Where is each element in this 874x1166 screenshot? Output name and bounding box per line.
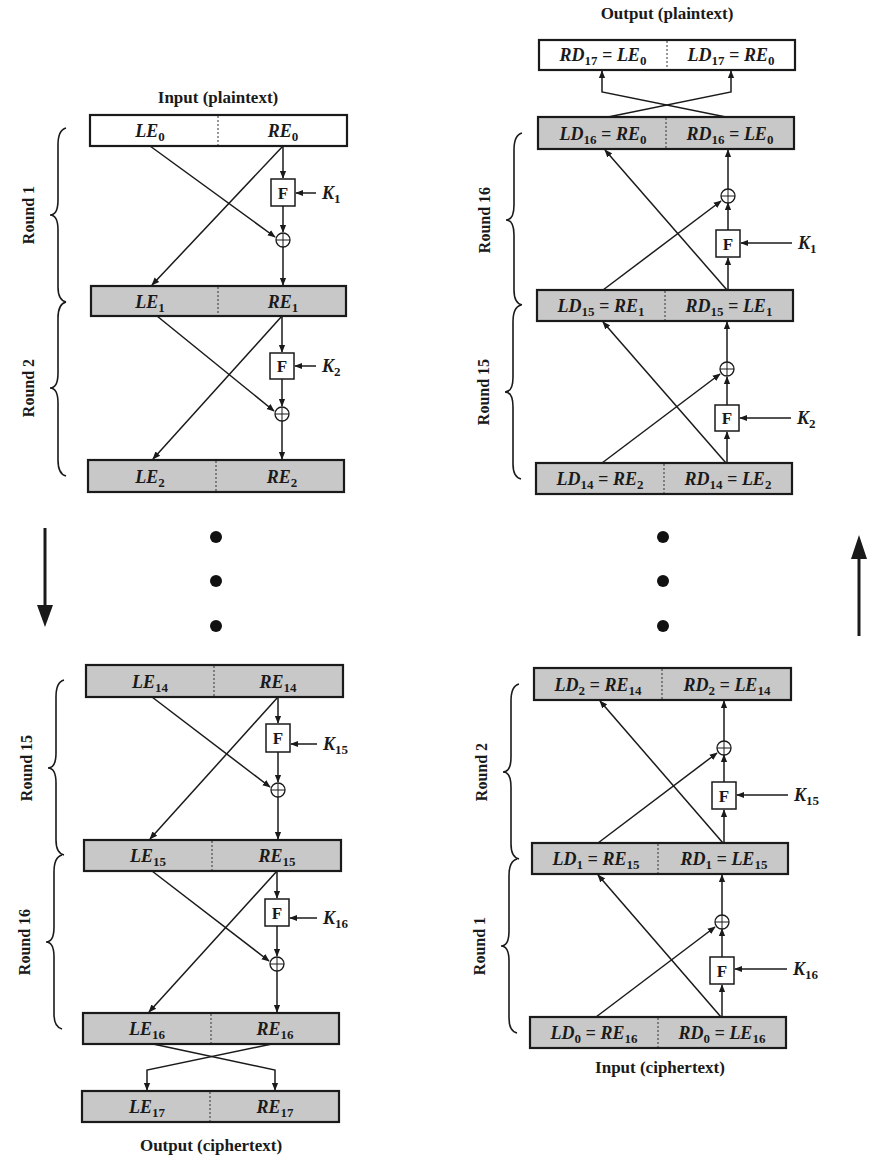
enc-round-braces: Round 1 Round 2 Round 15 Round 16 [16,128,66,1029]
dec-round-braces: Round 16 Round 15 Round 2 Round 1 [471,133,522,1033]
svg-text:Round 1: Round 1 [20,186,37,244]
svg-text:F: F [277,357,287,376]
enc-round-16-wiring: F K16 [149,871,349,1012]
svg-text:F: F [722,409,732,428]
enc-block-16: LE16 RE16 [83,1013,339,1044]
dec-round-2-wiring: F K15 [598,701,820,843]
dec-block-14: LD14 = RE2 RD14 = LE2 [536,463,792,494]
dec-block-15: LD15 = RE1 RD15 = LE1 [537,290,793,321]
feistel-diagram: Input (plaintext) LE0 RE0 F K1 [0,0,874,1166]
ellipsis-dots [657,531,669,632]
enc-round-1-wiring: F K1 [150,146,341,285]
decryption-input-label: Input (ciphertext) [595,1058,725,1077]
xor-icon [271,783,285,797]
xor-icon [720,362,734,376]
svg-text:F: F [278,184,288,203]
svg-text:RD17 = LE0: RD17 = LE0 [559,45,647,68]
direction-up-arrow-icon [851,535,867,636]
xor-icon [715,915,729,929]
encryption-column: Input (plaintext) LE0 RE0 F K1 [16,88,349,1155]
svg-text:LD14 = RE2: LD14 = RE2 [556,469,644,492]
dec-block-16: LD16 = RE0 RD16 = LE0 [538,117,794,149]
decryption-output-label: Output (plaintext) [601,4,734,23]
svg-text:F: F [719,787,729,806]
svg-text:Round 16: Round 16 [16,909,33,975]
enc-block-14: LE14 RE14 [86,665,343,697]
enc-key-2: K2 [321,356,341,379]
svg-text:RD16 = LE0: RD16 = LE0 [686,124,774,147]
enc-key-1: K1 [321,183,341,206]
svg-text:Round 2: Round 2 [20,359,37,417]
dec-block-17: RD17 = LE0 LD17 = RE0 [539,40,795,70]
dec-final-swap [602,71,731,117]
dec-round-1-wiring: F K16 [596,875,819,1017]
xor-icon [275,407,289,421]
decryption-column: Output (plaintext) RD17 = LE0 LD17 = RE0… [471,4,867,1077]
svg-text:Round 15: Round 15 [18,735,35,801]
svg-text:LD16 = RE0: LD16 = RE0 [559,124,647,147]
svg-text:LD17 = RE0: LD17 = RE0 [687,45,775,68]
dec-block-2: LD2 = RE14 RD2 = LE14 [534,668,791,700]
xor-icon [721,189,735,203]
svg-text:F: F [272,904,282,923]
svg-text:Round 2: Round 2 [473,743,490,801]
direction-down-arrow-icon [37,528,53,627]
dec-block-0: LD0 = RE16 RD0 = LE16 [530,1017,786,1048]
svg-text:F: F [717,962,727,981]
dec-round-16-wiring: F K1 [603,150,817,290]
svg-text:RD14 = LE2: RD14 = LE2 [684,469,772,492]
enc-round-15-wiring: F K15 [150,697,349,839]
enc-block-0: LE0 RE0 [90,115,347,146]
svg-text:RD15 = LE1: RD15 = LE1 [685,296,773,319]
dec-key-16: K16 [792,959,819,982]
svg-text:LD15 = RE1: LD15 = RE1 [557,296,645,319]
enc-block-17: LE17 RE17 [82,1091,339,1122]
enc-block-1: LE1 RE1 [91,286,346,316]
encryption-output-label: Output (ciphertext) [140,1136,282,1155]
svg-text:F: F [273,729,283,748]
xor-icon [270,957,284,971]
svg-text:F: F [723,235,733,254]
svg-text:Round 1: Round 1 [471,917,488,975]
svg-text:Round 15: Round 15 [475,359,492,425]
enc-final-swap [147,1044,275,1090]
svg-text:Round 16: Round 16 [476,187,493,253]
encryption-input-label: Input (plaintext) [158,88,278,107]
enc-block-15: LE15 RE15 [84,840,341,871]
enc-key-16: K16 [322,908,349,931]
enc-key-15: K15 [322,734,349,757]
enc-block-2: LE2 RE2 [88,460,344,492]
xor-icon [717,741,731,755]
dec-round-15-wiring: F K2 [602,322,816,463]
ellipsis-dots [210,531,222,632]
xor-icon [276,233,290,247]
dec-key-15: K15 [793,785,820,808]
dec-block-1: LD1 = RE15 RD1 = LE15 [532,843,788,874]
dec-key-2: K2 [796,408,816,431]
enc-round-2-wiring: F K2 [153,316,341,459]
dec-key-1: K1 [797,233,817,256]
